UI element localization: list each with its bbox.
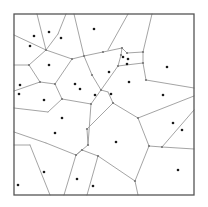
voronoi-vertex — [90, 103, 92, 105]
voronoi-vertex — [71, 58, 73, 60]
voronoi-vertex — [142, 51, 144, 53]
voronoi-vertex — [117, 65, 119, 67]
voronoi-vertex — [112, 102, 114, 104]
voronoi-vertex — [75, 154, 77, 156]
site-point — [108, 71, 111, 74]
voronoi-vertex — [87, 144, 89, 146]
voronoi-vertex — [86, 128, 88, 130]
voronoi-vertex — [100, 89, 102, 91]
site-point — [60, 37, 63, 40]
site-point — [48, 31, 51, 34]
voronoi-vertex — [28, 64, 30, 66]
site-point — [92, 185, 95, 188]
voronoi-vertex — [142, 62, 144, 64]
site-point — [126, 63, 129, 66]
site-point — [43, 99, 46, 102]
voronoi-vertex — [45, 49, 47, 51]
voronoi-vertex — [120, 54, 122, 56]
site-point — [29, 45, 32, 48]
site-point — [18, 93, 21, 96]
site-point — [177, 169, 180, 172]
voronoi-vertex — [61, 98, 63, 100]
site-point — [110, 93, 113, 96]
site-point — [19, 84, 22, 87]
voronoi-vertex — [39, 81, 41, 83]
site-point — [162, 94, 165, 97]
site-point — [122, 56, 125, 59]
site-point — [48, 64, 51, 67]
voronoi-vertex — [145, 79, 147, 81]
voronoi-vertex — [161, 146, 163, 148]
site-point — [127, 58, 130, 61]
voronoi-vertex — [134, 180, 136, 182]
voronoi-vertex — [137, 117, 139, 119]
site-point — [166, 66, 169, 69]
voronoi-vertex — [148, 145, 150, 147]
site-point — [94, 94, 97, 97]
site-point — [43, 171, 46, 174]
site-point — [74, 83, 77, 86]
voronoi-vertex — [91, 74, 93, 76]
site-point — [17, 184, 20, 187]
site-point — [33, 35, 36, 38]
site-point — [76, 178, 79, 181]
voronoi-vertex — [126, 52, 128, 54]
site-point — [181, 129, 184, 132]
site-point — [54, 132, 57, 135]
voronoi-vertex — [102, 51, 104, 53]
voronoi-vertex — [54, 83, 56, 85]
diagram-background — [0, 0, 208, 207]
site-point — [128, 81, 131, 84]
site-point — [79, 88, 82, 91]
voronoi-vertex — [97, 155, 99, 157]
site-point — [115, 141, 118, 144]
voronoi-vertex — [121, 47, 123, 49]
site-point — [61, 117, 64, 120]
site-point — [93, 28, 96, 31]
voronoi-vertex — [83, 55, 85, 57]
voronoi-vertex — [81, 149, 83, 151]
voronoi-diagram — [0, 0, 208, 207]
site-point — [172, 122, 175, 125]
